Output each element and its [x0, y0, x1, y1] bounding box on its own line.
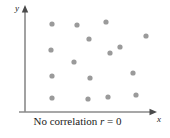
caption-suffix-text: = 0	[104, 115, 121, 127]
data-point	[117, 44, 122, 49]
data-point	[133, 92, 138, 97]
data-point	[87, 75, 92, 80]
data-point	[74, 22, 79, 27]
x-axis-label: x	[157, 115, 161, 124]
data-point	[48, 47, 53, 52]
data-point	[143, 33, 148, 38]
data-points-group	[48, 19, 148, 101]
data-point	[130, 70, 135, 75]
y-axis-arrow-icon	[22, 5, 28, 13]
data-point	[107, 50, 112, 55]
data-point	[86, 36, 91, 41]
correlation-caption: No correlation r = 0	[0, 115, 155, 127]
scatterplot-figure: y x No correlation r = 0	[0, 0, 170, 138]
data-point	[103, 19, 108, 24]
data-point	[49, 95, 54, 100]
y-axis-label: y	[15, 4, 19, 13]
data-point	[105, 94, 110, 99]
caption-prefix-text: No correlation	[33, 115, 100, 127]
data-point	[71, 59, 76, 64]
data-point	[49, 73, 54, 78]
data-point	[49, 21, 54, 26]
data-point	[85, 96, 90, 101]
